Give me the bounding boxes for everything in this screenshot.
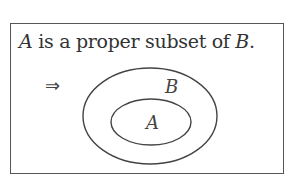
set-b-label: B	[164, 76, 178, 97]
venn-diagram: B A	[0, 0, 300, 183]
figure: A is a proper subset of B. ⇒ B A	[0, 0, 300, 183]
set-a-label: A	[144, 112, 159, 133]
